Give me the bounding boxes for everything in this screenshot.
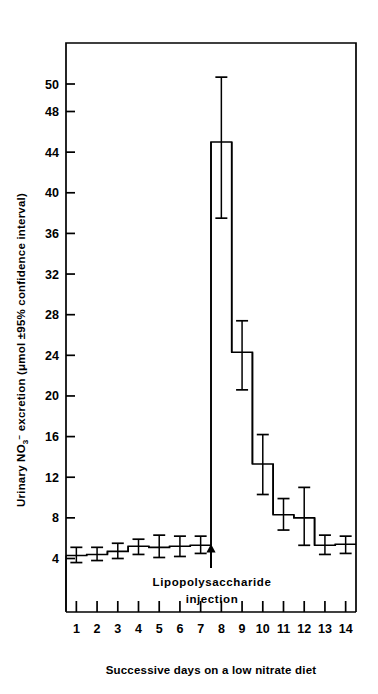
- y-tick-label: 12: [45, 471, 59, 485]
- x-tick-label: 5: [156, 622, 163, 636]
- y-tick-label: 40: [45, 186, 59, 200]
- y-tick-label: 44: [45, 146, 59, 160]
- annotation-lipopolysaccharide-injection: Lipopolysaccharideinjection: [153, 544, 272, 605]
- y-tick-label: 8: [52, 511, 59, 525]
- x-tick-label: 7: [197, 622, 204, 636]
- chart-svg: 481216202428323640444850Urinary NO3− exc…: [0, 0, 378, 694]
- y-tick-label: 20: [45, 389, 59, 403]
- x-tick-label: 14: [339, 622, 353, 636]
- y-tick-label: 48: [45, 105, 59, 119]
- chart-figure: 481216202428323640444850Urinary NO3− exc…: [0, 0, 378, 694]
- y-tick-label: 36: [45, 227, 59, 241]
- annotation-line-2: injection: [186, 593, 239, 605]
- x-tick-label: 3: [114, 622, 121, 636]
- error-bar: [298, 487, 310, 545]
- y-tick-label: 28: [45, 308, 59, 322]
- x-tick-label: 2: [94, 622, 101, 636]
- x-tick-label: 8: [218, 622, 225, 636]
- y-tick-label: 4: [52, 552, 59, 566]
- svg-text:Urinary NO3− excretion (μmol ±: Urinary NO3− excretion (μmol ±95% confid…: [15, 193, 30, 507]
- x-tick-label: 4: [135, 622, 142, 636]
- y-axis-title: Urinary NO3− excretion (μmol ±95% confid…: [15, 193, 30, 507]
- x-tick-label: 10: [256, 622, 270, 636]
- annotation-line-1: Lipopolysaccharide: [153, 576, 272, 588]
- x-axis-title: Successive days on a low nitrate diet: [106, 664, 317, 676]
- error-bar: [153, 535, 165, 557]
- y-axis: 481216202428323640444850: [45, 78, 75, 567]
- error-bar: [236, 321, 248, 390]
- y-tick-label: 32: [45, 268, 59, 282]
- x-tick-label: 6: [176, 622, 183, 636]
- x-tick-label: 13: [318, 622, 332, 636]
- x-axis: 1234567891011121314Successive days on a …: [66, 601, 356, 676]
- y-tick-label: 16: [45, 430, 59, 444]
- x-tick-label: 12: [297, 622, 311, 636]
- step-connectors: [87, 142, 336, 555]
- error-bar: [215, 77, 227, 218]
- x-tick-label: 11: [277, 622, 290, 636]
- y-tick-label: 24: [45, 349, 59, 363]
- y-tick-label: 50: [45, 78, 59, 92]
- x-tick-label: 1: [73, 622, 80, 636]
- x-tick-label: 9: [239, 622, 246, 636]
